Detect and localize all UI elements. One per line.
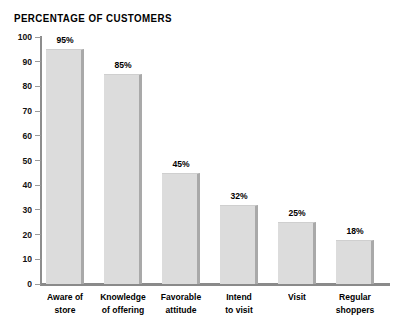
bar-value-label: 95% (40, 35, 90, 45)
x-axis-category-label: Intendto visit (212, 291, 266, 316)
y-axis-tick-label: 60 (9, 131, 32, 141)
y-axis-tick (35, 135, 41, 136)
y-axis-tick (35, 160, 41, 161)
bar[interactable] (336, 240, 374, 284)
y-axis-tick (35, 111, 41, 112)
category-label-line: store (38, 304, 92, 317)
y-axis-tick (35, 284, 41, 285)
y-axis-tick-label: 0 (9, 279, 32, 289)
y-axis-tick-label: 20 (9, 230, 32, 240)
plot-area: 0102030405060708090100 95%Aware ofstore8… (0, 0, 405, 334)
y-axis-tick-label: 50 (9, 156, 32, 166)
bar-value-label: 25% (272, 208, 322, 218)
category-label-line: shoppers (328, 304, 382, 317)
x-axis-category-label: Knowledgeof offering (96, 291, 150, 316)
bar-value-label: 32% (214, 191, 264, 201)
category-label-line: Intend (212, 291, 266, 304)
y-axis-tick-label: 10 (9, 254, 32, 264)
category-label-line: of offering (96, 304, 150, 317)
bar-value-label: 18% (330, 226, 380, 236)
x-axis-category-label: Aware ofstore (38, 291, 92, 316)
y-axis-tick-label: 100 (9, 32, 32, 42)
x-axis-category-label: Visit (270, 291, 324, 304)
y-axis-tick (35, 259, 41, 260)
y-axis-tick (35, 185, 41, 186)
y-axis-tick-label: 30 (9, 205, 32, 215)
bar-chart: PERCENTAGE OF CUSTOMERS 0102030405060708… (0, 0, 405, 334)
category-label-line: attitude (154, 304, 208, 317)
bar[interactable] (104, 74, 142, 284)
x-axis-category-label: Favorableattitude (154, 291, 208, 316)
category-label-line: to visit (212, 304, 266, 317)
category-label-line: Visit (270, 291, 324, 304)
category-label-line: Knowledge (96, 291, 150, 304)
category-label-line: Regular (328, 291, 382, 304)
y-axis-tick (35, 61, 41, 62)
bar-value-label: 45% (156, 159, 206, 169)
y-axis-tick-label: 40 (9, 180, 32, 190)
category-label-line: Favorable (154, 291, 208, 304)
bar[interactable] (162, 173, 200, 284)
category-label-line: Aware of (38, 291, 92, 304)
y-axis-tick-label: 70 (9, 106, 32, 116)
bar-value-label: 85% (98, 60, 148, 70)
bar[interactable] (278, 222, 316, 284)
y-axis-tick (35, 86, 41, 87)
y-axis-tick (35, 234, 41, 235)
x-axis-category-label: Regularshoppers (328, 291, 382, 316)
bar[interactable] (46, 49, 84, 284)
y-axis-tick-label: 80 (9, 81, 32, 91)
y-axis-tick (35, 209, 41, 210)
y-axis-tick-label: 90 (9, 57, 32, 67)
bar[interactable] (220, 205, 258, 284)
